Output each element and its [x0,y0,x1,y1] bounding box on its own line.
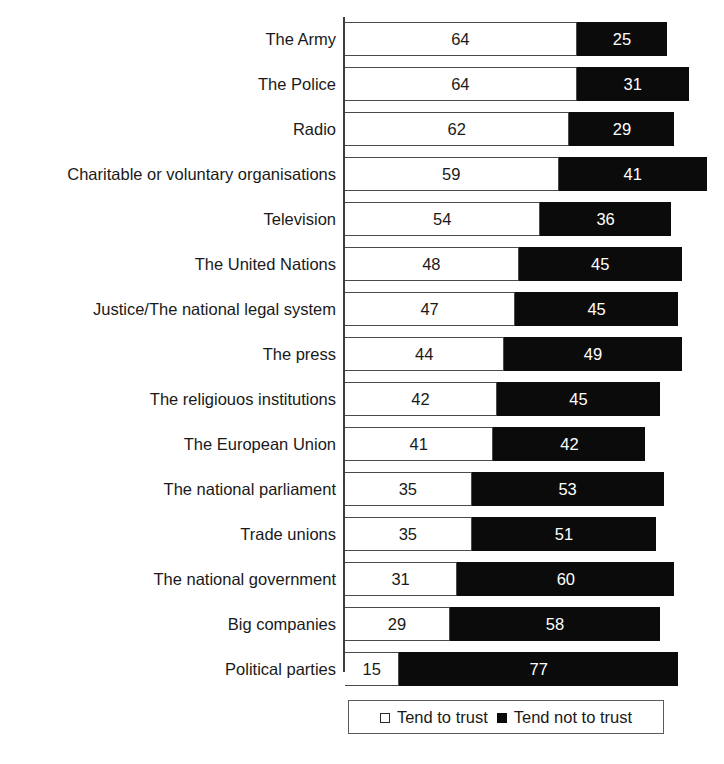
bar-segment-tend-not-to-trust: 45 [497,382,660,416]
bar-value-label: 36 [596,210,614,227]
stacked-bar-chart: The Army6425The Police6431Radio6229Chari… [0,0,724,764]
bar-row: The European Union4142 [0,427,724,461]
bar-value-label: 25 [613,30,631,47]
bar-value-label: 49 [584,345,602,362]
bar-segment-tend-to-trust: 64 [345,67,577,101]
stacked-bar: 4449 [345,337,682,371]
bar-segment-tend-not-to-trust: 51 [472,517,657,551]
bar-value-label: 58 [546,615,564,632]
stacked-bar: 6431 [345,67,689,101]
open-square-icon [380,713,390,723]
bar-segment-tend-not-to-trust: 42 [493,427,645,461]
bar-value-label: 59 [442,165,460,182]
bar-value-label: 60 [557,570,575,587]
category-label: Charitable or voluntary organisations [67,157,336,191]
bar-value-label: 47 [420,300,438,317]
bar-value-label: 29 [388,615,406,632]
bar-segment-tend-not-to-trust: 53 [472,472,664,506]
bar-segment-tend-to-trust: 42 [345,382,497,416]
bar-segment-tend-to-trust: 29 [345,607,450,641]
bar-segment-tend-to-trust: 59 [345,157,559,191]
filled-square-icon [497,713,507,723]
bar-row: The religiouos institutions4245 [0,382,724,416]
bar-segment-tend-not-to-trust: 31 [577,67,689,101]
bar-value-label: 42 [560,435,578,452]
bar-value-label: 54 [433,210,451,227]
bar-segment-tend-not-to-trust: 41 [559,157,707,191]
bar-value-label: 31 [391,570,409,587]
stacked-bar: 1577 [345,652,678,686]
category-label: The national parliament [164,472,336,506]
stacked-bar: 6425 [345,22,667,56]
bar-row: The national government3160 [0,562,724,596]
bar-value-label: 35 [399,525,417,542]
bar-value-label: 35 [399,480,417,497]
bar-value-label: 62 [448,120,466,137]
stacked-bar: 5941 [345,157,707,191]
legend-label-tend-to-trust: Tend to trust [397,708,488,727]
plot-area: The Army6425The Police6431Radio6229Chari… [0,0,724,690]
bar-segment-tend-not-to-trust: 45 [519,247,682,281]
legend-label-tend-not-to-trust: Tend not to trust [514,708,632,727]
bar-value-label: 51 [555,525,573,542]
category-label: The Police [258,67,336,101]
category-label: The press [263,337,336,371]
bar-segment-tend-to-trust: 15 [345,652,399,686]
bar-row: The United Nations4845 [0,247,724,281]
bar-segment-tend-to-trust: 48 [345,247,519,281]
bar-segment-tend-to-trust: 64 [345,22,577,56]
category-label: The religiouos institutions [150,382,336,416]
legend-item-tend-not-to-trust: Tend not to trust [497,708,632,727]
bar-value-label: 53 [558,480,576,497]
stacked-bar: 3551 [345,517,656,551]
category-label: The national government [153,562,336,596]
stacked-bar: 4142 [345,427,645,461]
stacked-bar: 2958 [345,607,660,641]
stacked-bar: 3553 [345,472,664,506]
bar-value-label: 45 [591,255,609,272]
bar-segment-tend-to-trust: 35 [345,517,472,551]
bar-row: Justice/The national legal system4745 [0,292,724,326]
bar-segment-tend-not-to-trust: 45 [515,292,678,326]
stacked-bar: 4245 [345,382,660,416]
bar-value-label: 45 [587,300,605,317]
bar-row: Big companies2958 [0,607,724,641]
stacked-bar: 6229 [345,112,674,146]
bar-value-label: 15 [362,660,380,677]
bar-value-label: 44 [415,345,433,362]
bar-row: Television5436 [0,202,724,236]
category-label: Big companies [228,607,336,641]
stacked-bar: 3160 [345,562,674,596]
stacked-bar: 4845 [345,247,682,281]
bar-row: Charitable or voluntary organisations594… [0,157,724,191]
category-label: Radio [293,112,336,146]
bar-value-label: 42 [411,390,429,407]
bar-segment-tend-to-trust: 35 [345,472,472,506]
bar-segment-tend-to-trust: 44 [345,337,504,371]
category-label: Justice/The national legal system [93,292,336,326]
bar-segment-tend-to-trust: 47 [345,292,515,326]
bar-segment-tend-not-to-trust: 49 [504,337,681,371]
bar-segment-tend-not-to-trust: 36 [540,202,670,236]
bar-segment-tend-to-trust: 41 [345,427,493,461]
bar-value-label: 48 [422,255,440,272]
category-label: Political parties [225,652,336,686]
bar-row: The press4449 [0,337,724,371]
bar-value-label: 29 [613,120,631,137]
legend-item-tend-to-trust: Tend to trust [380,708,488,727]
category-label: Television [264,202,336,236]
category-label: The Army [265,22,336,56]
bar-row: Trade unions3551 [0,517,724,551]
category-label: The European Union [184,427,336,461]
category-label: Trade unions [240,517,336,551]
bar-value-label: 31 [624,75,642,92]
bar-value-label: 64 [451,30,469,47]
stacked-bar: 4745 [345,292,678,326]
bar-segment-tend-to-trust: 31 [345,562,457,596]
bar-segment-tend-to-trust: 54 [345,202,540,236]
chart-legend: Tend to trust Tend not to trust [348,700,664,734]
bar-value-label: 64 [451,75,469,92]
bar-row: The Army6425 [0,22,724,56]
bar-segment-tend-to-trust: 62 [345,112,569,146]
stacked-bar: 5436 [345,202,671,236]
